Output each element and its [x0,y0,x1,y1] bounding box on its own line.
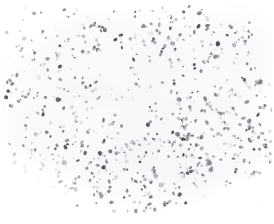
microscopy-slide-canvas [0,0,274,224]
microscopy-viewport: Histopathology Microscopy Field Sparse d… [0,0,274,224]
stained-nucleus [135,54,138,55]
stained-nucleus [21,95,23,97]
stained-nucleus [74,177,77,181]
stained-nucleus [142,210,145,213]
stained-nucleus [112,209,116,213]
